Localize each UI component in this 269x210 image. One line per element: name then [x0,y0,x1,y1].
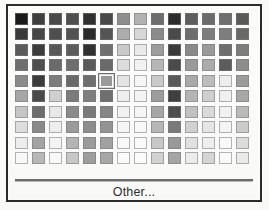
color-swatch-cell[interactable] [81,104,98,120]
color-swatch-cell[interactable] [98,89,115,105]
color-swatch-cell[interactable] [132,11,149,27]
color-swatch-cell[interactable] [81,73,98,89]
color-swatch-cell[interactable] [13,104,30,120]
color-swatch-cell[interactable] [64,135,81,151]
color-swatch-cell[interactable] [200,135,217,151]
color-swatch-cell[interactable] [81,11,98,27]
color-swatch-cell[interactable] [234,73,251,89]
color-swatch-cell[interactable] [166,151,183,167]
color-swatch-cell[interactable] [30,11,47,27]
color-swatch-cell[interactable] [30,120,47,136]
color-swatch-cell[interactable] [234,11,251,27]
color-swatch-cell[interactable] [47,42,64,58]
color-swatch-cell[interactable] [132,89,149,105]
color-swatch-cell[interactable] [47,89,64,105]
color-swatch-cell[interactable] [47,151,64,167]
color-swatch-cell[interactable] [183,120,200,136]
other-color-button[interactable]: Other... [11,183,257,201]
color-swatch-cell[interactable] [47,58,64,74]
color-swatch-cell[interactable] [81,89,98,105]
color-swatch-cell[interactable] [183,104,200,120]
color-swatch-cell[interactable] [149,89,166,105]
color-swatch-cell[interactable] [183,151,200,167]
color-swatch-cell[interactable] [98,42,115,58]
color-swatch-cell[interactable] [115,73,132,89]
color-swatch-cell[interactable] [115,89,132,105]
color-swatch-cell[interactable] [166,104,183,120]
color-swatch-cell[interactable] [200,151,217,167]
color-swatch-cell[interactable] [115,104,132,120]
color-swatch-cell[interactable] [30,135,47,151]
color-swatch-cell[interactable] [149,58,166,74]
color-swatch-cell[interactable] [166,42,183,58]
color-swatch-cell[interactable] [132,120,149,136]
color-swatch-cell[interactable] [64,151,81,167]
color-swatch-cell[interactable] [234,151,251,167]
color-swatch-cell[interactable] [98,135,115,151]
color-swatch-cell[interactable] [149,151,166,167]
color-swatch-cell[interactable] [64,11,81,27]
color-swatch-grid[interactable] [13,11,257,166]
color-swatch-cell[interactable] [81,135,98,151]
color-swatch-cell[interactable] [217,11,234,27]
color-swatch-cell[interactable] [13,151,30,167]
color-swatch-cell[interactable] [47,11,64,27]
color-swatch-cell[interactable] [98,104,115,120]
color-swatch-cell[interactable] [166,27,183,43]
color-swatch-cell[interactable] [234,135,251,151]
color-swatch-cell[interactable] [30,27,47,43]
color-swatch-cell[interactable] [132,58,149,74]
color-swatch-cell[interactable] [115,151,132,167]
color-swatch-cell[interactable] [64,42,81,58]
color-swatch-cell[interactable] [183,135,200,151]
color-swatch-cell[interactable] [149,42,166,58]
color-swatch-cell[interactable] [47,27,64,43]
color-swatch-cell-selected[interactable] [98,73,115,89]
color-swatch-cell[interactable] [81,151,98,167]
color-swatch-cell[interactable] [217,151,234,167]
color-swatch-cell[interactable] [200,89,217,105]
color-swatch-cell[interactable] [81,58,98,74]
color-swatch-cell[interactable] [13,135,30,151]
color-swatch-cell[interactable] [183,58,200,74]
color-swatch-cell[interactable] [132,135,149,151]
color-swatch-cell[interactable] [30,58,47,74]
color-swatch-cell[interactable] [166,73,183,89]
color-swatch-cell[interactable] [98,151,115,167]
color-swatch-cell[interactable] [64,120,81,136]
color-swatch-cell[interactable] [149,135,166,151]
color-swatch-cell[interactable] [64,73,81,89]
color-swatch-cell[interactable] [30,42,47,58]
color-swatch-cell[interactable] [64,27,81,43]
color-swatch-cell[interactable] [217,89,234,105]
color-swatch-cell[interactable] [13,73,30,89]
color-swatch-cell[interactable] [30,151,47,167]
color-swatch-cell[interactable] [81,120,98,136]
color-swatch-cell[interactable] [149,73,166,89]
color-swatch-cell[interactable] [166,58,183,74]
color-swatch-cell[interactable] [64,104,81,120]
color-swatch-cell[interactable] [115,135,132,151]
color-swatch-cell[interactable] [166,135,183,151]
color-swatch-cell[interactable] [200,104,217,120]
color-swatch-cell[interactable] [166,89,183,105]
color-swatch-cell[interactable] [166,120,183,136]
color-swatch-cell[interactable] [132,73,149,89]
color-swatch-cell[interactable] [47,73,64,89]
color-swatch-cell[interactable] [183,73,200,89]
color-swatch-cell[interactable] [234,120,251,136]
color-swatch-cell[interactable] [30,104,47,120]
color-swatch-cell[interactable] [98,27,115,43]
color-swatch-cell[interactable] [115,27,132,43]
color-swatch-cell[interactable] [132,42,149,58]
color-swatch-cell[interactable] [234,42,251,58]
color-swatch-cell[interactable] [200,42,217,58]
color-swatch-cell[interactable] [81,27,98,43]
color-swatch-cell[interactable] [217,58,234,74]
color-swatch-cell[interactable] [98,11,115,27]
color-swatch-cell[interactable] [98,58,115,74]
color-swatch-cell[interactable] [13,42,30,58]
color-swatch-cell[interactable] [13,58,30,74]
color-swatch-cell[interactable] [166,11,183,27]
color-swatch-cell[interactable] [217,42,234,58]
